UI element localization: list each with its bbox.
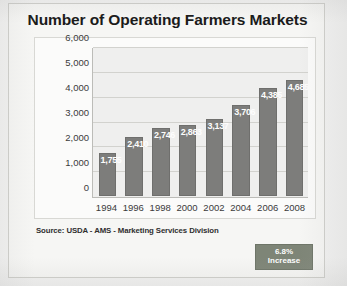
chart-card: Number of Operating Farmers Markets 6,00… (8, 3, 325, 278)
bar[interactable]: 4,685 (286, 80, 304, 196)
bar-slot: 1,755 (94, 48, 121, 196)
bar-series: 1,7552,4102,7462,8633,1373,7064,3854,685 (94, 48, 308, 196)
page-title: Number of Operating Farmers Markets (9, 11, 326, 29)
bar[interactable]: 2,410 (125, 137, 143, 196)
bar[interactable]: 4,385 (259, 88, 277, 196)
x-axis-tick-label: 2008 (281, 202, 308, 213)
y-axis-tick-label: 1,000 (65, 157, 89, 168)
bar-slot: 2,746 (148, 48, 175, 196)
plot-area: 1,7552,4102,7462,8633,1373,7064,3854,685 (92, 48, 308, 198)
bar[interactable]: 2,863 (179, 125, 197, 196)
bar-value-label: 2,410 (127, 139, 148, 149)
bar-value-label: 4,385 (261, 90, 282, 100)
y-axis-tick-label: 3,000 (65, 107, 89, 118)
y-axis-tick-label: 5,000 (65, 57, 89, 68)
x-axis-labels: 19941996199820002002200420062008 (93, 198, 308, 217)
bar-value-label: 3,137 (208, 121, 229, 131)
x-axis-tick-label: 2004 (227, 202, 254, 213)
x-axis-tick-label: 2002 (201, 202, 228, 213)
bar-slot: 2,410 (121, 48, 148, 196)
bar[interactable]: 3,706 (232, 105, 250, 196)
increase-callout: 6.8% Increase (255, 244, 313, 270)
callout-label: Increase (268, 257, 300, 266)
bar-value-label: 2,746 (154, 130, 175, 140)
bar-slot: 4,685 (281, 48, 308, 196)
bar-slot: 3,137 (201, 48, 228, 196)
x-axis-tick-label: 1998 (147, 202, 174, 213)
y-axis-tick-label: 6,000 (65, 32, 89, 43)
bar-value-label: 3,706 (234, 107, 255, 117)
y-axis-tick-label: 4,000 (65, 82, 89, 93)
bar-value-label: 2,863 (181, 127, 202, 137)
plot-frame: 6,0005,0004,0003,0002,0001,0000 1,7552,4… (34, 37, 316, 219)
bar-slot: 2,863 (174, 48, 201, 196)
x-axis-tick-label: 1994 (93, 202, 120, 213)
y-axis-tick-label: 2,000 (65, 132, 89, 143)
x-axis-tick-label: 2000 (174, 202, 201, 213)
bar[interactable]: 1,755 (99, 153, 117, 196)
source-note: Source: USDA - AMS - Marketing Services … (36, 226, 219, 235)
x-axis-tick-label: 1996 (120, 202, 147, 213)
bar-value-label: 1,755 (101, 155, 122, 165)
y-axis-tick-label: 0 (84, 182, 89, 193)
bar[interactable]: 3,137 (206, 119, 224, 196)
x-axis-tick-label: 2006 (254, 202, 281, 213)
chart-screenshot: Number of Operating Farmers Markets 6,00… (0, 0, 347, 286)
bar[interactable]: 2,746 (152, 128, 170, 196)
bar-value-label: 4,685 (288, 82, 309, 92)
bar-slot: 3,706 (228, 48, 255, 196)
y-axis-labels: 6,0005,0004,0003,0002,0001,0000 (35, 48, 89, 198)
bar-slot: 4,385 (255, 48, 282, 196)
